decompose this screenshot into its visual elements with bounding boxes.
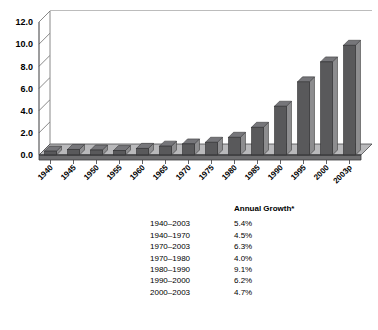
bar-1975 — [206, 137, 223, 155]
annual-growth-table: Annual Growth* 1940–20035.4%1940–19704.5… — [150, 203, 294, 298]
floor-front-edge — [39, 155, 361, 160]
y-tick-label-6.0: 6.0 — [20, 84, 33, 94]
cell-period: 1970–2003 — [150, 241, 234, 252]
x-axis-tick-labels: 1940194519501955196019651970197519801985… — [36, 163, 354, 186]
bar-front — [45, 151, 57, 155]
bar-1965 — [160, 141, 177, 155]
x-tick-label-2000: 2000 — [312, 163, 331, 182]
bar-side — [263, 122, 268, 155]
cell-period: 1980–1990 — [150, 264, 234, 275]
gridline-connector-12.0 — [39, 11, 50, 22]
bar-side — [355, 40, 360, 155]
bar-1985 — [252, 122, 269, 155]
table-row: 1940–19704.5% — [150, 230, 294, 241]
gridline-connector-10.0 — [39, 33, 50, 44]
x-tick-label-2003p: 2003p — [332, 163, 354, 185]
cell-growth-value: 4.0% — [234, 253, 294, 264]
table-head: Annual Growth* — [150, 203, 294, 218]
chart-canvas: 0.02.04.06.08.010.012.0 1940194519501955… — [0, 0, 378, 200]
table-row: 1990–20006.2% — [150, 275, 294, 286]
cell-growth-value: 6.2% — [234, 275, 294, 286]
y-tick-label-12.0: 12.0 — [15, 17, 33, 27]
bar-front — [91, 150, 103, 155]
cell-period: 1940–1970 — [150, 230, 234, 241]
cell-growth-value: 4.5% — [234, 230, 294, 241]
bar-front — [229, 137, 241, 155]
table-row: 1970–20036.3% — [150, 241, 294, 252]
bar-1970 — [183, 139, 200, 155]
gridline-connector-6.0 — [39, 78, 50, 89]
x-tick-label-1975: 1975 — [197, 163, 216, 182]
cell-period: 1990–2000 — [150, 275, 234, 286]
bar-2003p — [344, 40, 361, 155]
y-tick-label-0.0: 0.0 — [20, 150, 33, 160]
cell-growth-value: 9.1% — [234, 264, 294, 275]
gridline-connector-8.0 — [39, 55, 50, 66]
bar-front — [160, 146, 172, 155]
x-tick-label-1970: 1970 — [174, 163, 193, 182]
x-tick-label-1945: 1945 — [59, 163, 78, 182]
x-tick-label-1980: 1980 — [220, 163, 239, 182]
bar-1990 — [275, 101, 292, 155]
table-row: 1940–20035.4% — [150, 218, 294, 229]
x-tick-label-1955: 1955 — [105, 163, 124, 182]
bar-front — [68, 149, 80, 155]
bar-2000 — [321, 57, 338, 155]
bar-chart: 0.02.04.06.08.010.012.0 1940194519501955… — [0, 0, 378, 200]
cell-period: 1940–2003 — [150, 218, 234, 229]
x-tick-label-1995: 1995 — [289, 163, 308, 182]
header-annual-growth: Annual Growth* — [234, 203, 294, 218]
bar-front — [137, 148, 149, 155]
bar-1980 — [229, 132, 246, 155]
bar-front — [275, 106, 287, 155]
bar-1995 — [298, 77, 315, 155]
y-tick-label-4.0: 4.0 — [20, 106, 33, 116]
bar-front — [344, 45, 356, 155]
table-body: 1940–20035.4%1940–19704.5%1970–20036.3%1… — [150, 218, 294, 298]
y-tick-label-2.0: 2.0 — [20, 128, 33, 138]
cell-growth-value: 5.4% — [234, 218, 294, 229]
cell-growth-value: 6.3% — [234, 241, 294, 252]
header-period — [150, 203, 234, 218]
bar-side — [286, 101, 291, 155]
x-tick-label-1940: 1940 — [36, 163, 55, 182]
bar-front — [114, 151, 126, 155]
x-tick-label-1950: 1950 — [82, 163, 101, 182]
bar-side — [332, 57, 337, 155]
table-row: 1980–19909.1% — [150, 264, 294, 275]
gridline-connector-2.0 — [39, 122, 50, 133]
cell-period: 1970–1980 — [150, 253, 234, 264]
table-header-row: Annual Growth* — [150, 203, 294, 218]
bar-front — [252, 127, 264, 155]
bar-front — [298, 82, 310, 155]
y-tick-label-8.0: 8.0 — [20, 62, 33, 72]
y-tick-label-10.0: 10.0 — [15, 39, 33, 49]
x-tick-label-1990: 1990 — [266, 163, 285, 182]
table-row: 1970–19804.0% — [150, 253, 294, 264]
y-axis-tick-labels: 0.02.04.06.08.010.012.0 — [15, 17, 33, 160]
x-tick-label-1965: 1965 — [151, 163, 170, 182]
bar-side — [309, 77, 314, 155]
cell-growth-value: 4.7% — [234, 287, 294, 298]
figure: 0.02.04.06.08.010.012.0 1940194519501955… — [0, 0, 378, 330]
x-tick-label-1985: 1985 — [243, 163, 262, 182]
bar-front — [183, 144, 195, 155]
growth-table-block: Annual Growth* 1940–20035.4%1940–19704.5… — [0, 203, 378, 330]
x-tick-label-1960: 1960 — [128, 163, 147, 182]
bar-front — [206, 142, 218, 155]
gridline-connector-4.0 — [39, 100, 50, 111]
table-row: 2000–20034.7% — [150, 287, 294, 298]
cell-period: 2000–2003 — [150, 287, 234, 298]
bar-front — [321, 62, 333, 155]
